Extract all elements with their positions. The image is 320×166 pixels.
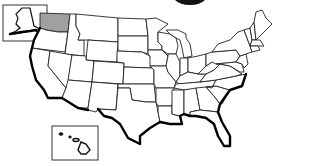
state-new-mexico[interactable] [88, 82, 118, 112]
state-wyoming[interactable] [86, 40, 118, 62]
state-maine[interactable] [254, 10, 272, 40]
hawaii-inset-frame [52, 126, 98, 160]
island-kauai [59, 133, 63, 135]
island-oahu [69, 136, 72, 138]
state-massachusetts[interactable] [250, 40, 264, 46]
hawaii-inset [52, 126, 98, 160]
state-arizona[interactable] [62, 80, 92, 108]
top-partial-shape [175, 0, 205, 5]
state-north-dakota[interactable] [118, 18, 148, 36]
state-arkansas[interactable] [156, 88, 174, 106]
state-kansas[interactable] [123, 67, 154, 84]
state-montana[interactable] [76, 14, 118, 42]
island-maui [73, 139, 79, 142]
state-connecticut[interactable] [250, 46, 260, 52]
state-mississippi[interactable] [172, 90, 184, 116]
state-colorado[interactable] [92, 61, 124, 84]
